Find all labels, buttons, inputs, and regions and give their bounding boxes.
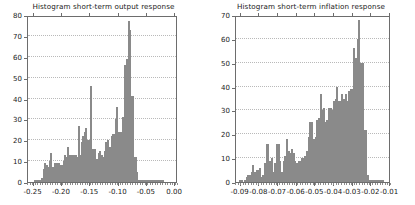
x-tick-minor [157, 183, 158, 185]
x-tick-label: -0.25 [24, 188, 42, 196]
x-tick-minor [67, 183, 68, 185]
x-tick-minor [359, 183, 360, 185]
x-tick-minor [170, 183, 171, 185]
x-tick-minor [302, 183, 303, 185]
x-tick-label: -0.07 [268, 188, 286, 196]
x-tick-minor [30, 183, 31, 185]
x-tick-minor [356, 183, 357, 185]
y-tick-label: 40 [207, 84, 230, 92]
x-tick-minor [325, 183, 326, 185]
x-tick-minor [362, 183, 363, 185]
x-tick-minor [35, 183, 36, 185]
x-tick-minor [253, 183, 254, 185]
x-tick-minor [42, 183, 43, 185]
x-tick-minor [256, 183, 257, 185]
x-tick-minor [243, 183, 244, 185]
x-tick-minor [52, 183, 53, 185]
x-tick-minor [248, 183, 249, 185]
y-tick-mark [24, 16, 27, 17]
x-tick-minor [258, 183, 259, 185]
x-tick-minor [92, 183, 93, 185]
x-tick-minor [80, 183, 81, 185]
y-tick-mark [24, 37, 27, 38]
x-tick-minor [266, 183, 267, 185]
x-tick-minor [331, 183, 332, 185]
x-tick-label: -0.03 [343, 188, 361, 196]
y-tick-mark [232, 88, 235, 89]
y-tick-mark [232, 135, 235, 136]
x-tick-minor [162, 183, 163, 185]
x-tick-minor [261, 183, 262, 185]
x-tick-minor [120, 183, 121, 185]
x-tick-minor [177, 183, 178, 185]
y-tick-mark [24, 162, 27, 163]
x-tick-minor [140, 183, 141, 185]
y-tick-mark [24, 58, 27, 59]
x-tick-minor [132, 183, 133, 185]
y-tick-label: 70 [0, 33, 22, 41]
x-tick-minor [390, 183, 391, 185]
x-tick-minor [110, 183, 111, 185]
x-tick-minor [282, 183, 283, 185]
x-tick-minor [305, 183, 306, 185]
y-tick-label: 20 [0, 137, 22, 145]
x-tick-label: -0.02 [361, 188, 379, 196]
x-tick-minor [380, 183, 381, 185]
x-tick-minor [269, 183, 270, 185]
x-tick-minor [310, 183, 311, 185]
x-tick-minor [50, 183, 51, 185]
x-tick-minor [323, 183, 324, 185]
x-tick-minor [240, 183, 241, 185]
x-tick-minor [115, 183, 116, 185]
x-tick-minor [369, 183, 370, 185]
plot-area-inflation [235, 16, 390, 183]
x-tick-minor [130, 183, 131, 185]
x-tick-minor [167, 183, 168, 185]
x-tick-minor [57, 183, 58, 185]
x-tick-minor [346, 183, 347, 185]
x-tick-minor [90, 183, 91, 185]
x-tick-minor [344, 183, 345, 185]
x-tick-minor [387, 183, 388, 185]
x-tick-minor [152, 183, 153, 185]
x-tick-minor [82, 183, 83, 185]
x-tick-minor [336, 183, 337, 185]
x-tick-minor [85, 183, 86, 185]
y-tick-mark [232, 64, 235, 65]
x-tick-minor [117, 183, 118, 185]
x-tick-minor [276, 183, 277, 185]
y-tick-mark [24, 79, 27, 80]
histogram-bar [162, 180, 164, 182]
x-tick-mark-top [314, 13, 315, 16]
x-tick-minor [349, 183, 350, 185]
x-tick-minor [95, 183, 96, 185]
x-tick-minor [351, 183, 352, 185]
x-tick-label: -0.05 [305, 188, 323, 196]
x-tick-minor [45, 183, 46, 185]
y-tick-label: 30 [207, 107, 230, 115]
x-tick-minor [289, 183, 290, 185]
x-tick-minor [72, 183, 73, 185]
x-tick-minor [150, 183, 151, 185]
x-tick-minor [60, 183, 61, 185]
x-tick-label: -0.01 [380, 188, 398, 196]
y-tick-mark [232, 40, 235, 41]
x-tick-minor [155, 183, 156, 185]
x-tick-minor [40, 183, 41, 185]
x-tick-minor [62, 183, 63, 185]
y-tick-label: 0 [0, 179, 22, 187]
x-tick-minor [274, 183, 275, 185]
x-tick-mark-top [89, 13, 90, 16]
x-tick-minor [385, 183, 386, 185]
x-tick-minor [300, 183, 301, 185]
x-tick-label: -0.05 [137, 188, 155, 196]
x-tick-minor [65, 183, 66, 185]
x-tick-minor [263, 183, 264, 185]
x-tick-minor [165, 183, 166, 185]
y-tick-label: 50 [0, 75, 22, 83]
y-tick-label: 50 [207, 60, 230, 68]
x-tick-mark-top [258, 13, 259, 16]
y-tick-mark [232, 159, 235, 160]
x-tick-minor [142, 183, 143, 185]
x-tick-minor [333, 183, 334, 185]
